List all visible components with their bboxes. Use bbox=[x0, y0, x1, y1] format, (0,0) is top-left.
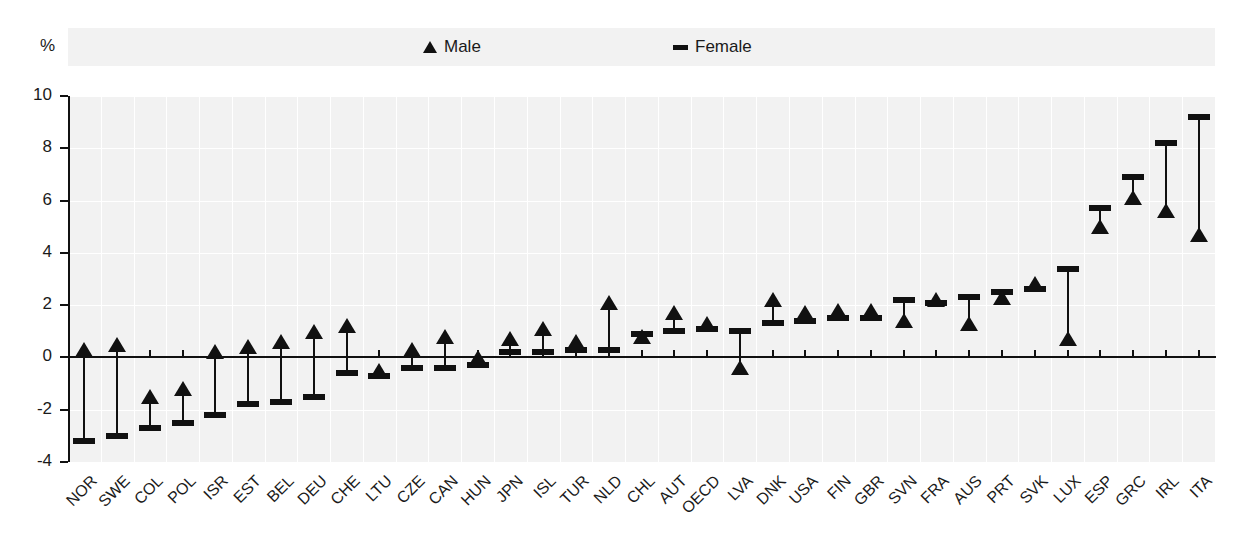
x-axis-tick bbox=[116, 350, 118, 356]
female-data-point bbox=[729, 328, 751, 334]
x-axis-tick bbox=[1099, 350, 1101, 356]
vertical-gridline bbox=[265, 96, 266, 462]
y-axis-tick-label: 8 bbox=[12, 137, 52, 157]
x-axis-tick bbox=[1132, 350, 1134, 356]
male-data-point bbox=[829, 303, 847, 318]
chart-root: % Male Female 1086420-2-4 NORSWECOLPOLIS… bbox=[0, 0, 1233, 546]
male-data-point bbox=[370, 363, 388, 378]
female-data-point bbox=[303, 394, 325, 400]
horizontal-gridline bbox=[68, 201, 1215, 202]
female-data-point bbox=[270, 399, 292, 405]
male-data-point bbox=[501, 331, 519, 346]
x-axis-tick bbox=[313, 350, 315, 356]
connector-line bbox=[182, 394, 184, 423]
x-axis-tick bbox=[1198, 350, 1200, 356]
x-axis-labels: NORSWECOLPOLISRESTBELDEUCHELTUCZECANHUNJ… bbox=[0, 462, 1233, 546]
x-axis-tick bbox=[641, 350, 643, 356]
male-data-point bbox=[1190, 227, 1208, 242]
x-axis-tick bbox=[378, 350, 380, 356]
male-data-point bbox=[960, 316, 978, 331]
x-axis-tick bbox=[214, 350, 216, 356]
x-axis-tick bbox=[509, 350, 511, 356]
male-data-point bbox=[633, 329, 651, 344]
triangle-up-icon bbox=[423, 41, 437, 53]
female-data-point bbox=[663, 328, 685, 334]
x-axis-tick bbox=[870, 350, 872, 356]
female-data-point bbox=[139, 425, 161, 431]
female-data-point bbox=[1057, 266, 1079, 272]
vertical-gridline bbox=[330, 96, 331, 462]
vertical-gridline bbox=[1149, 96, 1150, 462]
vertical-gridline bbox=[723, 96, 724, 462]
y-axis-tick-label: 6 bbox=[12, 190, 52, 210]
male-data-point bbox=[600, 295, 618, 310]
vertical-gridline bbox=[101, 96, 102, 462]
vertical-gridline bbox=[625, 96, 626, 462]
horizontal-gridline bbox=[68, 148, 1215, 149]
vertical-gridline bbox=[494, 96, 495, 462]
x-axis-tick bbox=[182, 350, 184, 356]
male-data-point bbox=[272, 334, 290, 349]
vertical-gridline bbox=[592, 96, 593, 462]
y-axis-tick bbox=[60, 252, 68, 254]
x-axis-tick bbox=[477, 350, 479, 356]
female-data-point bbox=[106, 433, 128, 439]
vertical-gridline bbox=[232, 96, 233, 462]
male-data-point bbox=[1157, 203, 1175, 218]
vertical-gridline bbox=[822, 96, 823, 462]
x-axis-tick bbox=[1165, 350, 1167, 356]
vertical-gridline bbox=[363, 96, 364, 462]
connector-line bbox=[83, 355, 85, 441]
connector-line bbox=[313, 337, 315, 397]
x-axis-tick bbox=[1001, 350, 1003, 356]
horizontal-gridline bbox=[68, 253, 1215, 254]
legend-label-male: Male bbox=[444, 37, 481, 57]
vertical-gridline bbox=[1182, 96, 1183, 462]
vertical-gridline bbox=[789, 96, 790, 462]
horizontal-gridline bbox=[68, 96, 1215, 97]
x-axis-tick bbox=[247, 350, 249, 356]
y-axis-tick-label: 4 bbox=[12, 242, 52, 262]
x-axis-tick bbox=[804, 350, 806, 356]
male-data-point bbox=[1026, 276, 1044, 291]
male-data-point bbox=[108, 337, 126, 352]
vertical-gridline bbox=[756, 96, 757, 462]
female-data-point bbox=[762, 320, 784, 326]
vertical-gridline bbox=[297, 96, 298, 462]
y-axis-tick bbox=[60, 147, 68, 149]
male-data-point bbox=[731, 360, 749, 375]
vertical-gridline bbox=[920, 96, 921, 462]
x-axis-tick bbox=[1067, 350, 1069, 356]
male-data-point bbox=[1059, 331, 1077, 346]
male-data-point bbox=[567, 334, 585, 349]
x-axis-tick bbox=[575, 350, 577, 356]
female-data-point bbox=[336, 370, 358, 376]
male-data-point bbox=[927, 292, 945, 307]
y-axis-tick-label: 10 bbox=[12, 85, 52, 105]
vertical-gridline bbox=[134, 96, 135, 462]
x-axis-tick bbox=[968, 350, 970, 356]
vertical-gridline bbox=[527, 96, 528, 462]
female-data-point bbox=[204, 412, 226, 418]
x-axis-tick bbox=[837, 350, 839, 356]
male-data-point bbox=[993, 290, 1011, 305]
male-data-point bbox=[1091, 219, 1109, 234]
y-axis-unit-label: % bbox=[40, 36, 55, 56]
vertical-gridline bbox=[396, 96, 397, 462]
female-data-point bbox=[1188, 114, 1210, 120]
x-axis-tick bbox=[739, 350, 741, 356]
horizontal-gridline bbox=[68, 410, 1215, 411]
male-data-point bbox=[1124, 190, 1142, 205]
horizontal-gridline bbox=[68, 305, 1215, 306]
y-axis-tick-label: -2 bbox=[12, 399, 52, 419]
vertical-gridline bbox=[1018, 96, 1019, 462]
legend-item-male: Male bbox=[423, 28, 481, 66]
male-data-point bbox=[764, 292, 782, 307]
connector-line bbox=[608, 308, 610, 350]
vertical-gridline bbox=[1117, 96, 1118, 462]
female-data-point bbox=[434, 365, 456, 371]
female-data-point bbox=[1122, 174, 1144, 180]
x-axis-tick bbox=[935, 350, 937, 356]
male-data-point bbox=[174, 381, 192, 396]
x-axis-tick bbox=[903, 350, 905, 356]
